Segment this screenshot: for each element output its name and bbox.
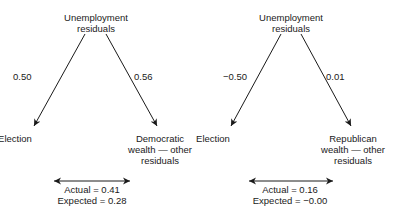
diagram-democratic: Unemployment residuals 0.50 0.56 Electio… bbox=[0, 0, 198, 217]
node-unemployment-residuals: Unemployment residuals bbox=[241, 12, 341, 34]
coef-right: 0.01 bbox=[326, 71, 345, 82]
actual-value: Actual = 0.41 bbox=[42, 184, 142, 195]
coef-right: 0.56 bbox=[134, 71, 153, 82]
coef-left: −0.50 bbox=[223, 71, 247, 82]
node-label-line: Republican bbox=[313, 133, 393, 144]
node-label-line: residuals bbox=[46, 23, 146, 34]
node-label-line: wealth — other bbox=[120, 144, 200, 155]
stats-block: Actual = 0.41 Expected = 0.28 bbox=[42, 184, 142, 206]
node-election: Election bbox=[0, 133, 45, 144]
coef-left: 0.50 bbox=[13, 71, 32, 82]
diagram-republican: Unemployment residuals −0.50 0.01 Electi… bbox=[198, 0, 396, 217]
node-unemployment-residuals: Unemployment residuals bbox=[46, 12, 146, 34]
node-label-line: Unemployment bbox=[46, 12, 146, 23]
node-label-line: wealth — other bbox=[313, 144, 393, 155]
node-label-line: Unemployment bbox=[241, 12, 341, 23]
node-label-line: residuals bbox=[313, 155, 393, 166]
actual-value: Actual = 0.16 bbox=[240, 184, 340, 195]
expected-value: Expected = −0.00 bbox=[240, 195, 340, 206]
stats-block: Actual = 0.16 Expected = −0.00 bbox=[240, 184, 340, 206]
node-label-line: residuals bbox=[120, 155, 200, 166]
expected-value: Expected = 0.28 bbox=[42, 195, 142, 206]
node-election: Election bbox=[183, 133, 243, 144]
node-republican-wealth: Republican wealth — other residuals bbox=[313, 133, 393, 166]
node-label-line: residuals bbox=[241, 23, 341, 34]
